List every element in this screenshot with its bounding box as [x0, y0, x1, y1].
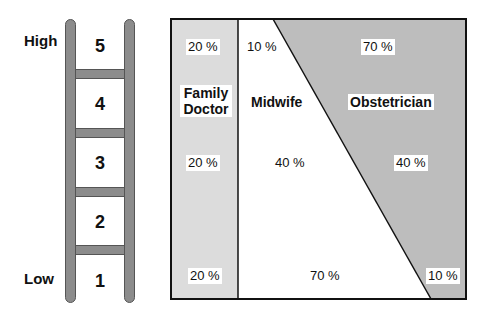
- family-doctor-label: Family Doctor: [180, 85, 232, 117]
- family-doctor-high-pct: 20 %: [186, 39, 220, 55]
- family-doctor-label-line1: Family: [182, 85, 230, 101]
- family-doctor-mid-pct: 20 %: [186, 155, 220, 171]
- obstetrician-high-pct: 70 %: [361, 39, 395, 55]
- obstetrician-low-pct: 10 %: [426, 268, 460, 284]
- obstetrician-mid-pct: 40 %: [394, 155, 428, 171]
- midwife-low-pct: 70 %: [308, 268, 342, 284]
- midwife-high-pct: 10 %: [245, 39, 279, 55]
- family-doctor-label-line2: Doctor: [182, 101, 230, 117]
- midwife-mid-pct: 40 %: [273, 155, 307, 171]
- midwife-label: Midwife: [249, 94, 304, 110]
- family-doctor-low-pct: 20 %: [188, 268, 222, 284]
- obstetrician-label: Obstetrician: [348, 94, 434, 110]
